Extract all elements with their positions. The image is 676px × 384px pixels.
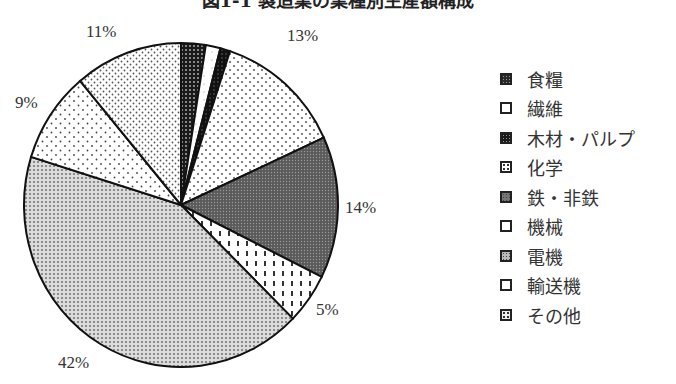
legend-label: その他 <box>527 302 581 328</box>
legend-item-wood-pulp: 木材・パルプ <box>500 123 635 153</box>
swatch-iron-icon <box>500 191 512 203</box>
swatch-wood-pulp-icon <box>500 132 512 144</box>
legend-item-machinery: 機械 <box>500 212 635 242</box>
legend-label: 繊維 <box>527 95 563 121</box>
swatch-electrical-icon <box>500 250 512 262</box>
swatch-transport-icon <box>500 279 512 291</box>
legend-item-transport: 輸送機 <box>500 271 635 301</box>
swatch-machinery-icon <box>500 220 512 232</box>
legend-item-electrical: 電機 <box>500 241 635 271</box>
legend-item-iron: 鉄・非鉄 <box>500 182 635 212</box>
legend-label: 化学 <box>527 154 563 180</box>
legend-item-chemistry: 化学 <box>500 153 635 183</box>
legend-item-textiles: 繊維 <box>500 94 635 124</box>
legend-label: 機械 <box>527 213 563 239</box>
legend-item-food: 食糧 <box>500 64 635 94</box>
swatch-other-icon <box>500 309 512 321</box>
label-other-pct: 11% <box>86 22 117 42</box>
swatch-chemistry-icon <box>500 161 512 173</box>
swatch-textiles-icon <box>500 102 512 114</box>
legend: 食糧 繊維 木材・パルプ 化学 鉄・非鉄 機械 電機 輸送機 その他 <box>500 64 635 330</box>
label-transport-pct: 9% <box>15 93 38 113</box>
legend-label: 木材・パルプ <box>527 125 635 151</box>
label-machinery-pct: 5% <box>316 300 339 320</box>
legend-label: 電機 <box>527 243 563 269</box>
label-iron-pct: 14% <box>345 198 376 218</box>
legend-label: 食糧 <box>527 66 563 92</box>
swatch-food-icon <box>500 73 512 85</box>
pie-slices <box>24 43 338 367</box>
legend-item-other: その他 <box>500 300 635 330</box>
label-chemistry-pct: 13% <box>287 26 318 46</box>
legend-label: 鉄・非鉄 <box>527 184 599 210</box>
legend-label: 輸送機 <box>527 272 581 298</box>
label-electrical-pct: 42% <box>58 353 89 373</box>
